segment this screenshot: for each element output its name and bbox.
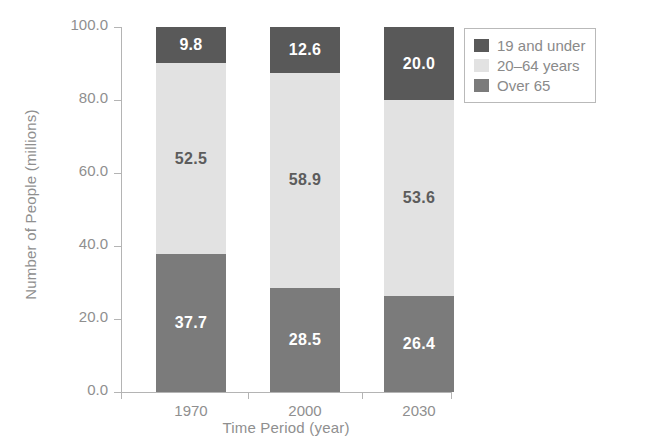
- y-axis-tick-label: 40.0: [79, 235, 108, 252]
- x-axis-title: Time Period (year): [121, 419, 451, 436]
- bar-segment-value-label: 12.6: [289, 42, 321, 58]
- y-axis-line: [121, 27, 122, 392]
- y-axis-tick-label: 0.0: [87, 381, 108, 398]
- y-axis-tick: 100.0: [114, 27, 121, 28]
- x-axis-tick-label: 2030: [364, 402, 474, 419]
- legend-item-label: 19 and under: [497, 37, 585, 54]
- legend-swatch-icon: [474, 79, 489, 92]
- legend-item-label: Over 65: [497, 77, 550, 94]
- bar-segment-value-label: 9.8: [179, 37, 202, 53]
- bar-stack[interactable]: 26.453.620.0: [384, 27, 454, 392]
- y-axis-tick: 60.0: [114, 173, 121, 174]
- bar-segment-value-label: 53.6: [403, 190, 435, 206]
- y-axis-tick-label: 100.0: [70, 16, 108, 33]
- bar-segment[interactable]: 12.6: [270, 27, 340, 73]
- bar-segment[interactable]: 26.4: [384, 296, 454, 392]
- bar-segment[interactable]: 52.5: [156, 63, 226, 255]
- y-axis-tick: 20.0: [114, 319, 121, 320]
- y-axis-tick: 40.0: [114, 246, 121, 247]
- x-axis-tick: [451, 392, 452, 399]
- bar-segment[interactable]: 37.7: [156, 254, 226, 392]
- bar-segment[interactable]: 20.0: [384, 27, 454, 100]
- y-axis-tick-label: 60.0: [79, 162, 108, 179]
- x-axis-tick: [121, 392, 122, 399]
- y-axis-tick-label: 80.0: [79, 89, 108, 106]
- bar-stack[interactable]: 37.752.59.8: [156, 27, 226, 392]
- chart-legend: 19 and under20–64 yearsOver 65: [464, 28, 596, 103]
- bar-segment-value-label: 37.7: [175, 315, 207, 331]
- bar-segment-value-label: 28.5: [289, 332, 321, 348]
- x-axis-tick-label: 1970: [136, 402, 246, 419]
- y-axis-title: Number of People (millions): [22, 25, 39, 385]
- bar-segment[interactable]: 58.9: [270, 73, 340, 288]
- legend-item[interactable]: 20–64 years: [474, 55, 585, 75]
- bar-segment-value-label: 20.0: [403, 56, 435, 72]
- x-axis-tick: [362, 392, 363, 399]
- y-axis-tick: 80.0: [114, 100, 121, 101]
- legend-item[interactable]: 19 and under: [474, 35, 585, 55]
- bar-segment-value-label: 58.9: [289, 172, 321, 188]
- legend-item-label: 20–64 years: [497, 57, 580, 74]
- y-axis-tick: 0.0: [114, 392, 121, 393]
- y-axis-tick-label: 20.0: [79, 308, 108, 325]
- x-axis-line: [121, 392, 451, 393]
- bar-segment-value-label: 26.4: [403, 336, 435, 352]
- legend-swatch-icon: [474, 59, 489, 72]
- bar-segment-value-label: 52.5: [175, 151, 207, 167]
- bar-segment[interactable]: 9.8: [156, 27, 226, 63]
- legend-swatch-icon: [474, 39, 489, 52]
- bar-stack[interactable]: 28.558.912.6: [270, 27, 340, 392]
- stacked-bar-chart: Number of People (millions) 0.020.040.06…: [0, 0, 646, 448]
- plot-area: 0.020.040.060.080.0100.0 37.752.59.828.5…: [121, 27, 451, 392]
- x-axis-tick-label: 2000: [250, 402, 360, 419]
- bar-segment[interactable]: 28.5: [270, 288, 340, 392]
- x-axis-tick: [248, 392, 249, 399]
- legend-item[interactable]: Over 65: [474, 75, 585, 95]
- bar-segment[interactable]: 53.6: [384, 100, 454, 296]
